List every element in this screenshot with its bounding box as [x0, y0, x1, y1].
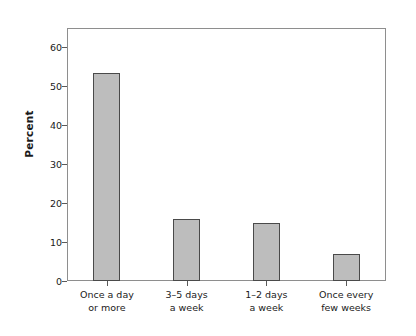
y-axis-tick-label: 20	[36, 198, 62, 209]
y-axis-title: Percent	[23, 99, 35, 169]
x-axis-category-label: Once a dayor more	[80, 289, 134, 314]
y-axis-tick-label: 40	[36, 120, 62, 131]
x-axis-category-label-line: 1–2 days	[245, 289, 287, 302]
y-axis-tick-label: 30	[36, 159, 62, 170]
y-axis-tick-label: 50	[36, 81, 62, 92]
x-axis-category-label: 3–5 daysa week	[165, 289, 207, 314]
x-axis-category-label-line: a week	[165, 302, 207, 315]
y-axis-tick-label: 0	[36, 276, 62, 287]
x-axis-tick-mark	[187, 281, 188, 286]
x-axis-category-label: Once everyfew weeks	[319, 289, 373, 314]
x-axis-category-label-line: Once a day	[80, 289, 134, 302]
x-axis-category-label-line: or more	[80, 302, 134, 315]
x-axis-tick-mark	[346, 281, 347, 286]
bar	[333, 254, 360, 281]
y-axis-tick-label: 10	[36, 237, 62, 248]
bar	[93, 73, 120, 281]
y-axis-tick-label: 60	[36, 42, 62, 53]
y-axis-tick-mark	[62, 281, 67, 282]
bar	[253, 223, 280, 281]
x-axis-category-label-line: few weeks	[319, 302, 373, 315]
x-axis-category-label-line: a week	[245, 302, 287, 315]
x-axis-tick-mark	[107, 281, 108, 286]
bar	[173, 219, 200, 281]
x-axis-category-label-line: Once every	[319, 289, 373, 302]
y-axis-tick-labels: 0102030405060	[36, 0, 62, 336]
x-axis-category-label-line: 3–5 days	[165, 289, 207, 302]
bar-chart: Percent 0102030405060 Once a dayor more3…	[0, 0, 416, 336]
x-axis-tick-mark	[266, 281, 267, 286]
x-axis-category-label: 1–2 daysa week	[245, 289, 287, 314]
